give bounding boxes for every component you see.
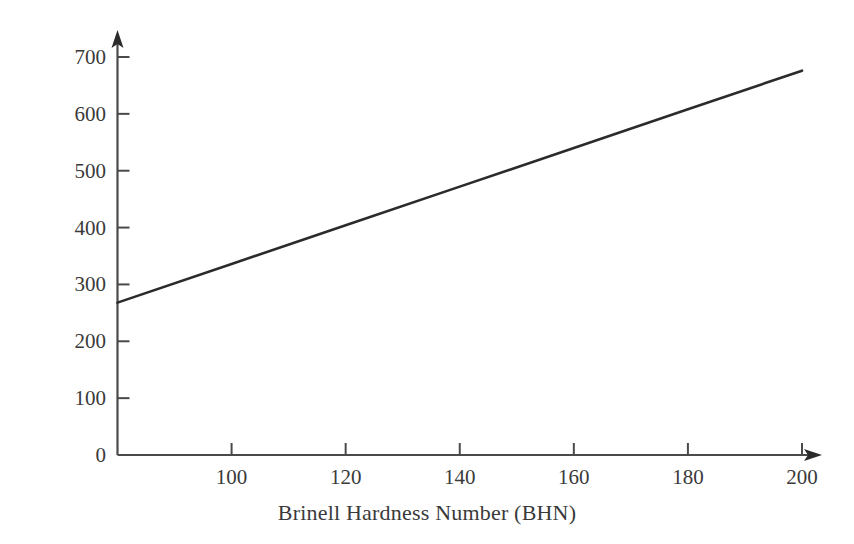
y-tick-label: 600 xyxy=(30,103,106,124)
y-tick-label: 400 xyxy=(30,217,106,238)
x-tick-label: 160 xyxy=(558,467,590,488)
chart-figure: 0100200300400500600700 10012014016018020… xyxy=(0,0,854,544)
y-tick-label: 0 xyxy=(30,445,106,466)
y-tick-label: 700 xyxy=(30,47,106,68)
data-line xyxy=(118,71,803,303)
y-axis-tick-marks xyxy=(118,57,130,398)
x-axis-title: Brinell Hardness Number (BHN) xyxy=(0,500,854,526)
x-axis xyxy=(118,449,823,461)
y-axis xyxy=(112,30,124,455)
y-tick-label: 500 xyxy=(30,160,106,181)
y-tick-label: 200 xyxy=(30,331,106,352)
x-tick-label: 140 xyxy=(444,467,476,488)
x-tick-label: 120 xyxy=(330,467,362,488)
chart-plot-area xyxy=(0,0,854,544)
data-series-group xyxy=(118,71,803,303)
x-axis-tick-marks xyxy=(232,443,802,455)
x-tick-label: 180 xyxy=(672,467,704,488)
x-tick-label: 100 xyxy=(216,467,248,488)
x-tick-label: 200 xyxy=(786,467,818,488)
y-tick-label: 300 xyxy=(30,274,106,295)
y-tick-label: 100 xyxy=(30,388,106,409)
